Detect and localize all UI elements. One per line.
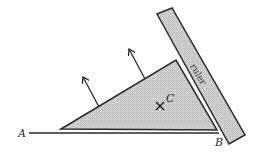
force-arrow-2 xyxy=(129,49,145,79)
label-c: C xyxy=(166,92,175,105)
diagram-canvas: ruler C A B xyxy=(0,0,257,156)
label-a: A xyxy=(17,127,26,140)
force-arrow-1 xyxy=(83,77,99,107)
label-b: B xyxy=(214,136,223,149)
